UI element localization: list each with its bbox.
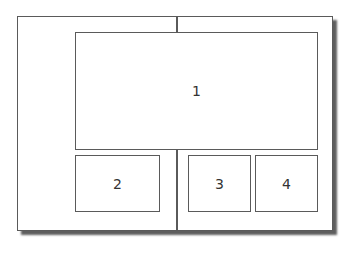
region-1: 1 — [75, 32, 318, 150]
region-4: 4 — [255, 155, 318, 212]
region-2-label: 2 — [113, 176, 122, 192]
region-2: 2 — [75, 155, 160, 212]
region-1-label: 1 — [192, 83, 201, 99]
region-4-label: 4 — [282, 176, 291, 192]
region-3-label: 3 — [215, 176, 224, 192]
region-3: 3 — [188, 155, 251, 212]
